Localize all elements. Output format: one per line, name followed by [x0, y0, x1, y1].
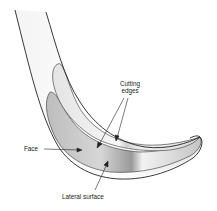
curette-diagram: Cutting edges Face Lateral surface: [0, 0, 217, 211]
face-label: Face: [24, 145, 38, 152]
cutting-edges-label-line2: edges: [112, 87, 148, 94]
lateral-surface-label: Lateral surface: [62, 193, 104, 200]
cutting-edges-label-line1: Cutting: [112, 80, 148, 87]
curette-illustration: [0, 0, 217, 211]
cutting-edges-label: Cutting edges: [112, 80, 148, 94]
